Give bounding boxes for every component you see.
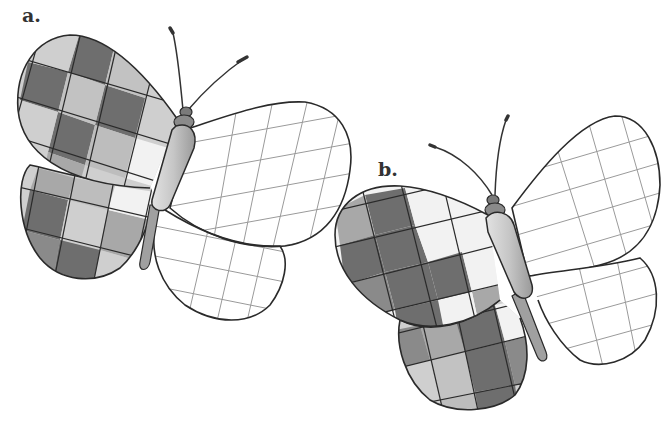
- antenna-tip: [506, 116, 508, 120]
- antenna-left: [435, 147, 492, 195]
- antenna-tip: [430, 145, 435, 147]
- antenna-tip: [170, 28, 173, 33]
- butterfly-a: [8, 28, 375, 345]
- butterflies-illustration: [0, 0, 670, 426]
- antenna-tip: [238, 57, 247, 62]
- antenna-left: [173, 33, 183, 110]
- butterfly-b: [330, 110, 670, 420]
- antenna-right: [188, 58, 245, 110]
- antenna-right: [495, 120, 506, 195]
